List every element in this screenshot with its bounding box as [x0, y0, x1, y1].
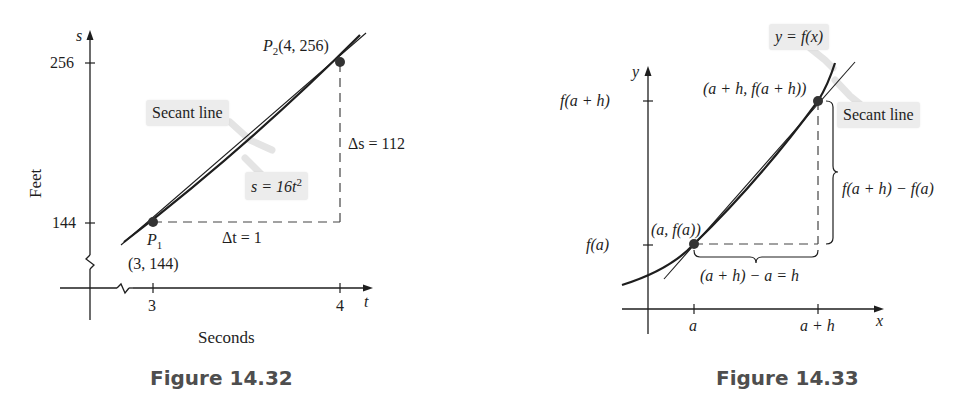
figure-14-32: s 256 144 3 4 t Feet Seconds Secant line…: [0, 0, 480, 414]
figure-14-33: y f(a + h) f(a) a a + h x y = f(x) Secan…: [520, 0, 967, 414]
y-axis-arrow-icon: [645, 66, 652, 76]
y-axis-symbol: y: [632, 64, 639, 80]
secant-line-callout-text: Secant line: [152, 104, 223, 121]
y-axis-arrow-icon: [87, 30, 94, 40]
curve-callout-text: s = 16t: [251, 178, 296, 195]
point-a-plus-h: [813, 96, 823, 106]
x-tick-a: a: [689, 318, 697, 334]
curve-callout-text: y = f(x): [775, 28, 823, 45]
delta-s-label: Δs = 112: [348, 136, 405, 152]
p1-label-sub: 1: [157, 239, 163, 251]
secant-line-callout-text: Secant line: [843, 106, 914, 123]
x-axis: [622, 304, 884, 314]
x-axis-symbol: x: [876, 313, 883, 329]
delta-t-label: Δt = 1: [222, 230, 262, 246]
secant-line-callout: Secant line: [837, 102, 920, 128]
curve-s-16t2: [124, 35, 360, 242]
curve-callout-exponent: 2: [296, 176, 302, 188]
run-brace-icon: [694, 250, 818, 263]
curve-callout: y = f(x): [769, 24, 829, 50]
figure-caption: Figure 14.32: [150, 366, 293, 390]
point-p1: [148, 217, 158, 227]
x-axis-title: Seconds: [198, 328, 255, 348]
p2-label-main: P: [263, 37, 273, 54]
y-tick-f-a-plus-h: f(a + h): [560, 93, 610, 109]
figure-14-33-plot: [520, 0, 967, 414]
point-low-label: (a, f(a)): [651, 222, 701, 238]
y-tick-f-a: f(a): [586, 237, 609, 253]
y-tick-256: 256: [50, 55, 74, 71]
curve-callout: s = 16t2: [245, 172, 308, 200]
x-tick-4: 4: [336, 298, 344, 314]
secant-line-callout: Secant line: [146, 100, 229, 126]
p2-label-coords: (4, 256): [278, 37, 329, 54]
delta-guides: [694, 101, 818, 244]
point-high-label: (a + h, f(a + h)): [703, 81, 806, 97]
y-axis-title: Feet: [26, 169, 46, 198]
x-axis-symbol: t: [364, 294, 368, 310]
run-label: (a + h) − a = h: [700, 268, 799, 284]
p1-label-main: P: [147, 231, 157, 248]
x-axis-arrow-icon: [363, 285, 373, 292]
point-p2: [335, 57, 345, 67]
y-axis-break-icon: [86, 255, 94, 269]
figure-caption: Figure 14.33: [716, 366, 859, 390]
rise-label: f(a + h) − f(a): [842, 181, 934, 197]
p2-label: P2(4, 256): [263, 38, 329, 57]
y-axis: [643, 66, 653, 334]
x-tick-a-plus-h: a + h: [800, 318, 835, 334]
y-axis-symbol: s: [76, 28, 82, 44]
p1-label: P1: [147, 232, 162, 251]
p1-coords: (3, 144): [128, 256, 179, 272]
point-a: [689, 239, 699, 249]
y-tick-144: 144: [52, 215, 76, 231]
x-axis: [60, 283, 373, 293]
y-axis: [85, 30, 95, 320]
x-axis-break-icon: [117, 284, 129, 293]
x-tick-3: 3: [148, 298, 156, 314]
